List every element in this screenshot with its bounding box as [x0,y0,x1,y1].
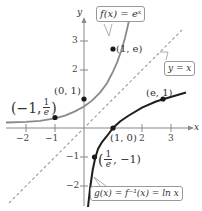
g-callout-pointer [94,177,106,186]
point-label-0-1: (0, 1) [54,86,81,96]
y-tick-label: −1 [66,152,79,161]
x-tick-label: −2 [16,134,29,143]
fraction: 1 e [104,150,112,169]
label-part: (−1, [11,101,42,115]
fraction-denominator: e [44,108,49,117]
fraction-denominator: e [106,160,111,169]
f-callout-pointer [104,24,112,36]
point-label-e-1: (e, 1) [146,88,172,98]
point-0-1 [81,96,86,101]
point-label-1e-m1: ( 1 e , −1) [98,150,141,169]
point-label-m1-1e: (−1, 1 e ) [11,98,57,117]
point-label-1-e: (1, e) [116,44,142,54]
identity-callout: y = x [164,61,195,76]
point-label-1-0: (1, 0) [110,133,137,143]
label-part: ( [98,153,103,167]
y-tick-label: −2 [66,181,79,190]
x-tick-label: 2 [139,134,145,143]
point-1-e [110,46,115,51]
x-tick-label: −1 [45,134,58,143]
point-1-0 [110,125,115,130]
point-1e-m1 [92,154,97,159]
y-axis-arrow-icon [82,17,87,23]
yx-callout-pointer [160,52,168,60]
label-part: , −1) [113,154,141,165]
x-tick-label: 3 [168,134,174,143]
ln-function-callout: g(x) = f⁻¹(x) = ln x [90,186,183,201]
y-tick-label: 2 [72,65,78,74]
label-part: ) [51,101,56,115]
y-tick-label: 3 [72,36,78,45]
x-axis-label: x [194,123,199,132]
exp-function-callout: f(x) = eˣ [96,6,145,22]
fraction: 1 e [43,98,51,117]
y-axis-label: y [77,8,82,17]
